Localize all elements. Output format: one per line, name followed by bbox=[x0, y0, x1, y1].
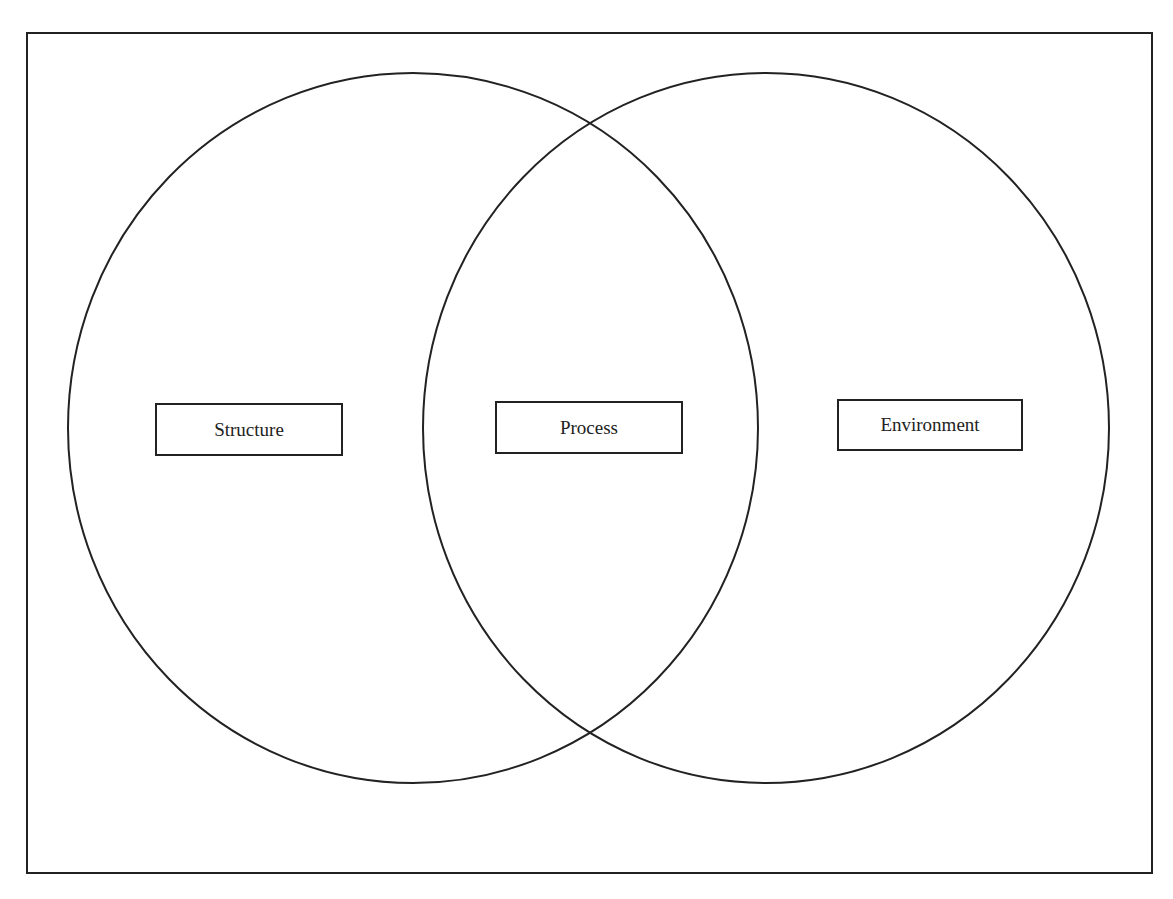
environment-label-text: Environment bbox=[880, 414, 979, 436]
process-label-text: Process bbox=[560, 417, 618, 439]
environment-label: Environment bbox=[837, 399, 1023, 451]
structure-label: Structure bbox=[155, 403, 343, 456]
process-label: Process bbox=[495, 401, 683, 454]
structure-label-text: Structure bbox=[214, 419, 284, 441]
